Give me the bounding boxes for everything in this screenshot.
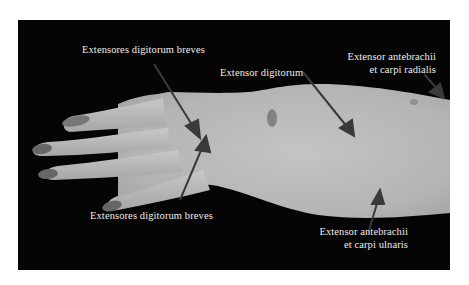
label-extensor-antebrachii-ulnaris: Extensor antebrachii et carpi ulnaris xyxy=(319,225,408,251)
label-extensor-antebrachii-radialis: Extensor antebrachii et carpi radialis xyxy=(347,50,436,76)
figure-panel: Extensores digitorum breves Extensor dig… xyxy=(18,20,450,270)
label-extensores-digitorum-breves-top: Extensores digitorum breves xyxy=(82,43,205,56)
arrow-eacr xyxy=(424,74,444,98)
label-extensores-digitorum-breves-bottom: Extensores digitorum breves xyxy=(90,209,213,222)
label-extensor-digitorum: Extensor digitorum xyxy=(220,66,303,79)
